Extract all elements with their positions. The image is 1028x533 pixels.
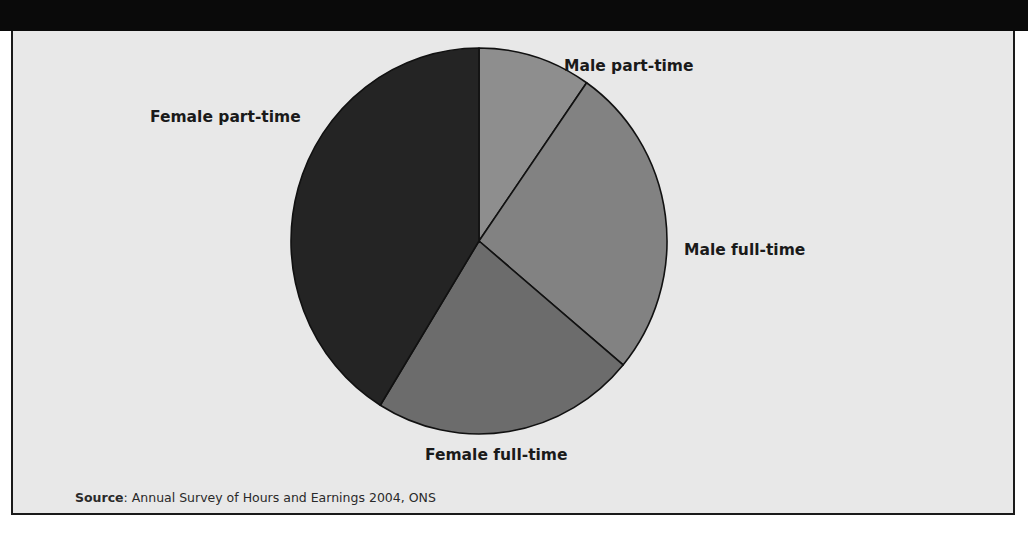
source-prefix: Source	[75, 490, 124, 505]
source-note: Source: Annual Survey of Hours and Earni…	[75, 490, 436, 505]
label-male-full-time: Male full-time	[684, 241, 805, 259]
source-text: Annual Survey of Hours and Earnings 2004…	[128, 490, 436, 505]
pie-slices	[291, 48, 667, 434]
label-female-part-time: Female part-time	[150, 108, 301, 126]
pie-chart: Male part-time Male full-time Female ful…	[0, 0, 1028, 533]
label-male-part-time: Male part-time	[564, 57, 694, 75]
label-female-full-time: Female full-time	[425, 446, 568, 464]
